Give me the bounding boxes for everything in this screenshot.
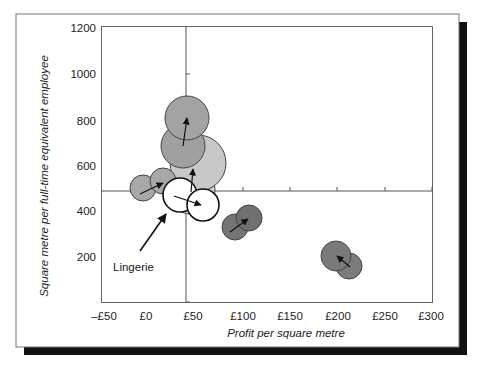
x-tick-label: £150	[277, 310, 303, 322]
y-tick-label: 800	[77, 115, 96, 127]
y-tick-label: 400	[77, 205, 96, 217]
x-tick-label: –£50	[91, 310, 117, 322]
bubble-lingerie-to	[187, 189, 219, 221]
y-tick-label: 1000	[70, 68, 96, 80]
bubble-category-e-to	[321, 241, 351, 271]
y-tick-label: 200	[77, 251, 96, 263]
bubble-category-d-to	[236, 205, 262, 231]
x-tick-label: £250	[372, 310, 398, 322]
x-tick-label: £0	[140, 310, 153, 322]
y-tick-label: 600	[77, 160, 96, 172]
x-axis-title: Profit per square metre	[227, 327, 345, 339]
frame-shadow-right	[459, 22, 467, 355]
bubble-chart: 1200 1000 800 600 400 200 –£50 £0 £50 £1…	[0, 0, 479, 366]
y-tick-label: 1200	[70, 22, 96, 34]
x-tick-label: £200	[325, 310, 351, 322]
frame-shadow-bottom	[24, 347, 467, 355]
x-tick-label: £300	[418, 310, 444, 322]
x-tick-label: £50	[183, 310, 202, 322]
y-axis-title: Square metre per full-time equivalent em…	[38, 55, 50, 297]
annotation-lingerie: Lingerie	[113, 261, 154, 273]
x-tick-label: £100	[230, 310, 256, 322]
